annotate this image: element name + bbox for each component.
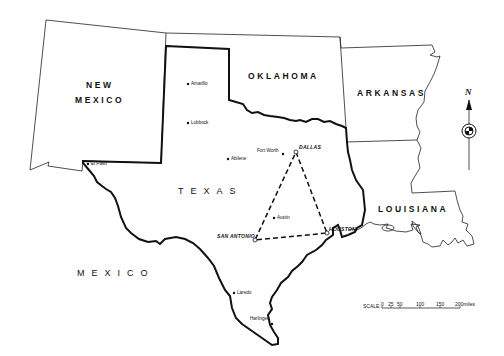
arkansas-label: ARKANSAS [357, 88, 426, 98]
fort-worth-dot [282, 153, 284, 155]
louisiana-border [348, 140, 474, 247]
louisiana-label: LOUISIANA [378, 204, 448, 214]
lubbock-label: Lubbock [191, 120, 208, 125]
fort-worth-label: Fort Worth [257, 148, 279, 153]
scale-tick-0: 0 [381, 301, 384, 307]
lubbock-dot [187, 122, 189, 124]
compass-rose [462, 99, 476, 170]
abilene-label: Abilene [231, 156, 246, 161]
scale-tick-25: 25 [388, 301, 394, 307]
scale-tick-150: 150 [436, 301, 444, 307]
abilene-dot [227, 158, 229, 160]
austin-dot [273, 217, 275, 219]
compass-north-label: N [465, 87, 472, 97]
el-paso-dot [87, 163, 89, 165]
houston-label: HOUSTON [329, 226, 356, 232]
laredo-label: Laredo [237, 290, 251, 295]
scale-tick-100: 100 [416, 301, 424, 307]
new-mexico-label-line2: MEXICO [75, 95, 124, 105]
laredo-dot [233, 292, 235, 294]
oklahoma-label: OKLAHOMA [248, 71, 319, 81]
austin-label: Austin [277, 215, 290, 220]
texas-label: TEXAS [178, 186, 243, 196]
scale-tick-50: 50 [397, 301, 403, 307]
san-antonio-label: SAN ANTONIO [217, 233, 255, 239]
dallas-marker [294, 150, 298, 154]
el-paso-label: El Paso [91, 161, 107, 166]
new-mexico-label-line1: NEW [86, 80, 114, 90]
amarillo-dot [187, 83, 189, 85]
amarillo-label: Amarillo [191, 81, 208, 86]
scale-tick-200: 200miles [455, 301, 475, 307]
mexico-label: MEXICO [77, 268, 155, 278]
harlingen-label: Harlingen [250, 316, 270, 321]
dallas-houston-sanantonio-triangle [255, 152, 327, 240]
harlingen-dot [271, 323, 273, 325]
map-canvas [0, 0, 504, 356]
scale-label: SCALE: [363, 303, 381, 309]
dallas-label: DALLAS [299, 144, 321, 150]
lake-feature [382, 225, 394, 231]
